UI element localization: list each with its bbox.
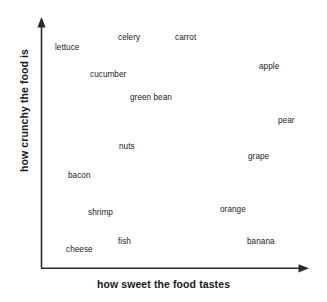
data-point-label: shrimp [88,209,113,217]
data-point-label: apple [259,63,279,71]
data-point-label: green bean [130,94,172,102]
data-point-label: celery [118,34,140,42]
data-point-label: cheese [66,246,93,254]
data-point-label: carrot [175,34,196,42]
data-point-label: bacon [68,172,91,180]
x-axis-arrowhead [299,264,310,272]
data-point-label: nuts [119,143,135,151]
scatter-plot-figure: how crunchy the food is how sweet the fo… [0,0,327,302]
data-point-label: grape [248,153,269,161]
data-point-label: lettuce [55,44,79,52]
axes-group [0,0,327,302]
data-point-label: fish [118,238,131,246]
data-point-label: cucumber [90,71,126,79]
data-point-label: pear [278,117,295,125]
x-axis-title: how sweet the food tastes [0,278,327,290]
y-axis-title: how crunchy the food is [18,124,30,172]
data-point-label: banana [247,238,275,246]
y-axis-arrowhead [37,17,45,28]
data-point-label: orange [220,206,246,214]
